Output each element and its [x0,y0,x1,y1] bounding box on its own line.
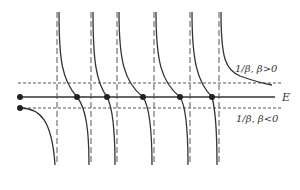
asymptotes [57,12,219,165]
label-beta-positive: 1/β, β>0 [235,63,278,74]
diagram-canvas: 1/β, β>0 E 1/β, β<0 [0,0,300,190]
label-energy-axis: E [281,91,290,104]
label-beta-negative: 1/β, β<0 [236,113,279,124]
curves [20,12,272,165]
